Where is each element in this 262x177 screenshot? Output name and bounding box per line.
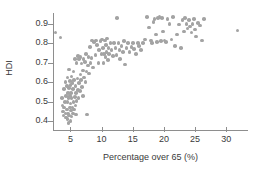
data-point bbox=[147, 26, 151, 30]
scatter-chart-figure: 0.40.50.60.70.80.9 51015202530 Percentag… bbox=[0, 0, 262, 177]
data-point bbox=[74, 113, 78, 117]
data-point bbox=[69, 119, 73, 123]
y-tick-label: 0.8 bbox=[26, 38, 48, 47]
data-point bbox=[118, 57, 122, 61]
data-point bbox=[88, 45, 92, 49]
data-point bbox=[143, 38, 147, 42]
data-point bbox=[112, 41, 116, 45]
x-tick-label: 5 bbox=[60, 135, 80, 144]
data-point bbox=[139, 48, 143, 52]
data-point bbox=[114, 46, 118, 50]
data-point bbox=[79, 78, 83, 82]
data-point bbox=[54, 31, 58, 35]
data-point bbox=[170, 38, 174, 42]
data-point bbox=[90, 56, 94, 60]
x-tick bbox=[226, 127, 227, 132]
x-tick bbox=[102, 127, 103, 132]
data-point bbox=[105, 37, 109, 41]
data-point bbox=[194, 35, 198, 39]
data-point bbox=[70, 115, 74, 119]
y-tick bbox=[48, 82, 54, 83]
x-tick bbox=[164, 127, 165, 132]
data-point bbox=[202, 17, 206, 21]
data-point bbox=[72, 108, 76, 112]
data-point bbox=[89, 61, 93, 65]
plot-area: 0.40.50.60.70.80.9 51015202530 bbox=[0, 0, 262, 177]
data-point bbox=[182, 30, 186, 34]
data-point bbox=[75, 61, 79, 65]
data-point bbox=[177, 23, 181, 27]
data-point bbox=[166, 17, 170, 21]
data-point bbox=[74, 104, 78, 108]
data-point bbox=[164, 40, 168, 44]
data-point bbox=[97, 61, 101, 65]
data-point bbox=[106, 58, 110, 62]
data-point bbox=[81, 94, 85, 98]
data-point bbox=[187, 18, 191, 22]
data-point bbox=[95, 43, 99, 47]
data-point bbox=[150, 41, 154, 45]
data-point bbox=[121, 50, 125, 54]
x-tick-label: 10 bbox=[92, 135, 112, 144]
data-point bbox=[134, 52, 138, 56]
data-point bbox=[77, 96, 81, 100]
x-tick-label: 25 bbox=[185, 135, 205, 144]
y-tick-label: 0.7 bbox=[26, 58, 48, 67]
data-point bbox=[94, 39, 98, 43]
data-point bbox=[120, 44, 124, 48]
data-point bbox=[198, 24, 202, 28]
data-point bbox=[69, 91, 73, 95]
data-point bbox=[102, 61, 106, 65]
data-point bbox=[126, 41, 130, 45]
data-point bbox=[236, 29, 240, 33]
data-point bbox=[59, 36, 63, 40]
data-point bbox=[173, 44, 177, 48]
x-tick-label: 15 bbox=[123, 135, 143, 144]
data-point bbox=[154, 33, 158, 37]
x-tick-label: 30 bbox=[216, 135, 236, 144]
y-tick-label: 0.4 bbox=[26, 116, 48, 125]
data-point bbox=[60, 96, 64, 100]
data-point bbox=[141, 41, 145, 45]
y-tick-label: 0.6 bbox=[26, 77, 48, 86]
data-point bbox=[131, 41, 135, 45]
data-point bbox=[87, 72, 91, 76]
data-point bbox=[78, 89, 82, 93]
data-point bbox=[161, 30, 165, 34]
x-tick-label: 20 bbox=[154, 135, 174, 144]
y-axis-label: HDI bbox=[4, 48, 14, 88]
data-point bbox=[145, 15, 149, 19]
data-point bbox=[168, 22, 172, 26]
x-axis-line bbox=[53, 130, 248, 131]
data-point bbox=[82, 76, 86, 80]
y-tick bbox=[48, 43, 54, 44]
data-point bbox=[85, 113, 89, 117]
data-point bbox=[200, 39, 204, 43]
data-point bbox=[123, 63, 127, 67]
data-point bbox=[175, 33, 179, 37]
data-point bbox=[191, 22, 195, 26]
data-point bbox=[190, 31, 194, 35]
data-point bbox=[179, 46, 183, 50]
data-point bbox=[132, 47, 136, 51]
y-tick bbox=[48, 24, 54, 25]
x-tick bbox=[70, 127, 71, 132]
data-point bbox=[80, 85, 84, 89]
y-tick bbox=[48, 102, 54, 103]
data-point bbox=[67, 68, 71, 72]
y-tick bbox=[48, 63, 54, 64]
data-point bbox=[91, 66, 95, 70]
data-point bbox=[115, 53, 119, 57]
data-point bbox=[72, 70, 76, 74]
data-point bbox=[160, 16, 164, 20]
data-point bbox=[110, 48, 114, 52]
data-point bbox=[171, 15, 175, 19]
x-axis-label: Percentage over 65 (%) bbox=[53, 152, 248, 162]
data-point bbox=[128, 50, 132, 54]
y-tick-label: 0.5 bbox=[26, 97, 48, 106]
data-point bbox=[192, 17, 196, 21]
data-point bbox=[193, 28, 197, 32]
data-point bbox=[94, 53, 98, 57]
data-point bbox=[83, 60, 87, 64]
data-point bbox=[115, 16, 119, 20]
